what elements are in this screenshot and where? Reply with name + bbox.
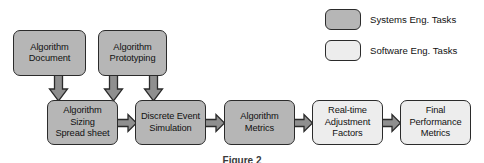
arrow-sizing-to-simulation <box>117 114 137 132</box>
diagram-canvas: Systems Eng. Tasks Software Eng. Tasks <box>0 0 484 163</box>
arrow-metrics-to-adjustment <box>293 114 313 132</box>
node-algorithm-prototyping-label: Algorithm Prototyping <box>110 42 156 65</box>
node-discrete-event-simulation-label: Discrete Event Simulation <box>141 111 200 134</box>
legend-swatch-software-eng <box>325 40 361 61</box>
node-algorithm-metrics-label: Algorithm Metrics <box>240 111 278 134</box>
arrow-prototyping-to-simulation <box>144 74 164 102</box>
arrow-document-to-sizing <box>49 74 69 102</box>
node-final-performance-metrics-label: Final Performance Metrics <box>409 105 461 139</box>
arrow-prototyping-to-sizing <box>104 74 124 102</box>
figure-caption: Figure 2 <box>0 155 484 163</box>
legend-label-software-eng: Software Eng. Tasks <box>370 45 457 56</box>
node-algorithm-prototyping[interactable]: Algorithm Prototyping <box>98 30 167 76</box>
node-algorithm-metrics[interactable]: Algorithm Metrics <box>224 100 295 145</box>
node-discrete-event-simulation[interactable]: Discrete Event Simulation <box>135 100 206 145</box>
node-algorithm-sizing-spread-sheet-label: Algorithm Sizing Spread sheet <box>55 105 109 139</box>
legend-label-systems-eng: Systems Eng. Tasks <box>370 14 456 25</box>
arrow-simulation-to-metrics <box>205 114 225 132</box>
node-algorithm-sizing-spread-sheet[interactable]: Algorithm Sizing Spread sheet <box>47 100 118 145</box>
node-real-time-adjustment-factors[interactable]: Real-time Adjustment Factors <box>312 100 383 145</box>
node-algorithm-document-label: Algorithm Document <box>29 42 71 65</box>
node-final-performance-metrics[interactable]: Final Performance Metrics <box>400 100 471 145</box>
legend-swatch-systems-eng <box>325 9 361 30</box>
node-algorithm-document[interactable]: Algorithm Document <box>13 30 86 76</box>
arrow-adjustment-to-final-performance <box>381 114 401 132</box>
node-real-time-adjustment-factors-label: Real-time Adjustment Factors <box>325 105 371 139</box>
